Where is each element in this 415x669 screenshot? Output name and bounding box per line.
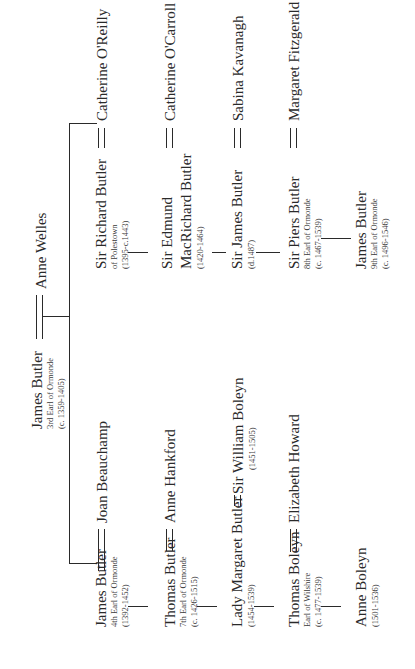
marriage-symbol [98,128,105,148]
marriage-symbol [290,128,297,148]
person-dates: (1392-1452) [121,549,130,627]
descent-line [43,316,69,317]
person-root: James Butler 3rd Earl of Ormonde (c. 135… [30,351,65,429]
person-name: Sir Piers Butler [287,177,302,270]
person-name: James Butler [30,351,45,429]
descent-line [69,123,97,124]
descent-line [128,252,148,253]
descent-line [254,606,274,607]
spouse: Sabina Kavanagh [231,16,246,121]
person-title: Earl of Wilshire [303,532,312,627]
person-title: 8th Earl of Ormonde [303,177,312,270]
person-dates: (c. 1477-1539) [314,532,323,627]
spouse-root: Anne Welles [34,213,49,289]
person-title: of Polestown [110,159,119,269]
person-name: Sir William Boleyn [231,377,246,494]
person-sir-james-butler: Sir James Butler (d.1487) [230,170,256,269]
person-title: 4th Earl of Ormonde [110,549,119,627]
person-dates: (c. 1426-1515) [190,537,199,627]
descent-line [321,238,351,239]
person-dates: (c. 1467-1539) [314,177,323,270]
person-title: 3rd Earl of Ormonde [46,351,55,429]
marriage-symbol [290,529,297,552]
descent-line [197,606,217,607]
person-dates: (1420-1464) [196,154,205,269]
person-sir-richard-butler: Sir Richard Butler of Polestown (1395-c.… [94,159,129,269]
person-name-line2: MacRichard Butler [179,154,194,269]
spouse: Anne Hankford [163,429,178,523]
person-anne-boleyn: Anne Boleyn (1501-1536) [354,547,380,627]
spouse: Catherine O'Carroll [163,3,178,121]
marriage-symbol [234,128,241,148]
descent-line [212,252,226,253]
family-tree-diagram: James Butler 3rd Earl of Ormonde (c. 135… [0,0,415,669]
person-dates: (d.1487) [247,170,256,269]
person-dates: (1501-1536) [371,547,380,627]
person-james-butler-9th: James Butler 9th Earl of Ormonde (c. 149… [354,191,389,269]
sibling-bracket [69,124,70,564]
spouse-sir-william-boleyn: Sir William Boleyn (1451-1505) [231,377,257,494]
person-name: Sir Richard Butler [94,159,109,269]
descent-line [321,606,341,607]
person-name: Sir James Butler [230,170,245,269]
marriage-symbol [36,295,43,339]
spouse: Joan Beauchamp [95,421,110,523]
person-dates: (c. 1496-1546) [381,191,390,269]
person-name: Lady Margaret Butler [230,496,245,627]
person-name: Anne Boleyn [354,547,369,627]
descent-line [128,606,148,607]
person-dates: (1454-1539) [247,496,256,627]
marriage-symbol [166,128,173,148]
marriage-symbol [98,529,105,571]
marriage-symbol [234,495,241,506]
spouse: Catherine O'Reilly [95,9,110,121]
person-lady-margaret-butler: Lady Margaret Butler (1454-1539) [230,496,256,627]
spouse: Margaret Fitzgerald [287,2,302,121]
descent-line [256,252,280,253]
person-dates: (c. 1359-1405) [57,351,66,429]
spouse: Elizabeth Howard [287,414,302,523]
person-title: 7th Earl of Ormonde [179,537,188,627]
person-dates: (1451-1505) [248,377,257,470]
person-name: James Butler [354,191,369,269]
marriage-symbol [166,529,173,551]
person-title: 9th Earl of Ormonde [370,191,379,269]
person-name-line1: Sir Edmund [160,154,175,269]
person-sir-piers-butler: Sir Piers Butler 8th Earl of Ormonde (c.… [287,177,322,270]
person-sir-edmund-macrichard-butler: Sir Edmund MacRichard Butler (1420-1464) [160,154,205,269]
